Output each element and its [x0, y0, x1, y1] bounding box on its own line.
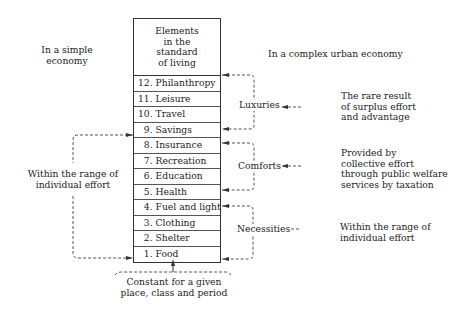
comforts-description: Provided by collective effort through pu… [341, 148, 448, 190]
bottom-note: Constant for a given place, class and pe… [115, 277, 233, 298]
left-individual-effort-bracket [73, 135, 133, 258]
group-label-luxuries: Luxuries [238, 100, 281, 111]
luxuries-description: The rare result of surplus effort and ad… [341, 91, 416, 123]
group-label-comforts: Comforts [237, 161, 282, 172]
necessities-description: Within the range of individual effort [340, 222, 431, 243]
arrow-head-icon [222, 141, 229, 145]
arrow-head-icon [126, 256, 133, 260]
arrow-head-icon [126, 133, 133, 137]
arrow-head-icon [281, 164, 288, 168]
arrow-head-icon [222, 127, 229, 131]
standard-of-living-diagram: In a simple economy In a complex urban e… [0, 0, 462, 313]
left-bracket-label: Within the range of individual effort [20, 169, 126, 190]
arrow-head-icon [222, 73, 229, 77]
group-label-necessities: Necessities [236, 224, 291, 235]
arrow-head-icon [222, 257, 229, 261]
arrow-head-icon [222, 204, 229, 208]
arrow-head-icon [222, 188, 229, 192]
arrow-head-icon [281, 105, 288, 109]
